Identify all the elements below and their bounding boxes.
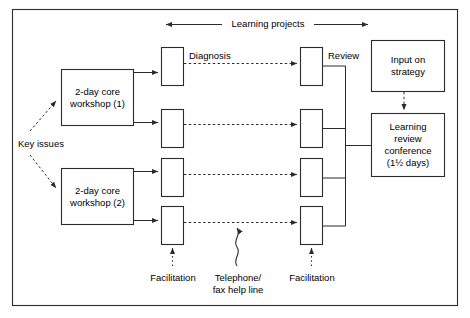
workshop-to-diagnosis-connectors (134, 73, 159, 221)
review-label: Review (328, 50, 359, 62)
learning-projects-label: Learning projects (228, 18, 308, 30)
facilitation-right-label: Facilitation (282, 272, 342, 284)
input-on-strategy-label: Input on strategy (371, 40, 445, 92)
facilitation-connectors (173, 248, 312, 266)
facilitation-left-label: Facilitation (143, 272, 203, 284)
telephone-fax-help-line-label: Telephone/ fax help line (207, 272, 269, 295)
box-diagnosis-1 (162, 48, 184, 86)
box-diagnosis-3 (162, 159, 184, 197)
diagnosis-label: Diagnosis (189, 50, 231, 62)
key-issues-label: Key issues (18, 138, 64, 150)
box-diagnosis-2 (162, 110, 184, 148)
telephone-fax-wavy-connector (236, 228, 239, 266)
box-review-2 (301, 110, 323, 148)
workshop-1-label: 2-day core workshop (1) (61, 69, 134, 126)
box-review-1 (301, 48, 323, 86)
learning-review-conference-label: Learning review conference (1½ days) (371, 113, 445, 177)
diagnosis-to-review-connectors (184, 64, 297, 223)
review-bus-connector (323, 66, 372, 226)
box-review-3 (301, 159, 323, 197)
box-review-4 (301, 207, 323, 245)
diagram-canvas: Learning projects 2-day core workshop (1… (0, 0, 470, 318)
box-diagnosis-4 (162, 207, 184, 245)
workshop-2-label: 2-day core workshop (2) (61, 168, 134, 225)
